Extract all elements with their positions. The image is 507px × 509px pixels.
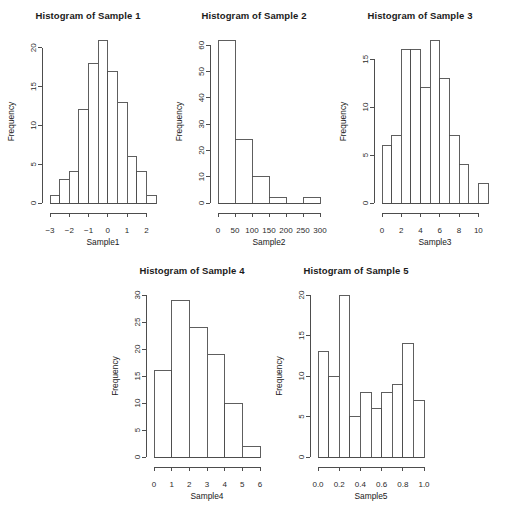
y-tick-label: 15 xyxy=(297,331,306,340)
histogram-bar xyxy=(172,300,190,457)
y-tick-label: 20 xyxy=(29,43,38,52)
histogram-bar xyxy=(127,156,137,203)
histogram-bar xyxy=(252,177,269,203)
histogram-bar xyxy=(108,71,118,203)
histogram-panel-sample3: Histogram of Sample 30510150246810Sample… xyxy=(336,10,504,255)
chart-title-sample2: Histogram of Sample 2 xyxy=(172,10,336,21)
histogram-bar xyxy=(235,140,252,203)
x-tick-label: 0 xyxy=(152,480,157,489)
histogram-bar xyxy=(401,50,411,203)
x-axis-title: Sample2 xyxy=(252,237,285,247)
x-axis-title: Sample1 xyxy=(86,237,119,247)
bars-sample3 xyxy=(382,40,488,203)
x-axis-sample2: 050100150200250300 xyxy=(216,203,327,235)
chart-title-sample3: Histogram of Sample 3 xyxy=(336,10,504,21)
histogram-bar xyxy=(413,400,424,457)
histogram-bar xyxy=(189,327,207,457)
histogram-bar xyxy=(154,371,172,457)
histogram-bar xyxy=(449,136,459,203)
x-tick-label: 0.6 xyxy=(376,480,388,489)
x-tick-label: −1 xyxy=(84,226,94,235)
x-axis-sample5: 0.00.20.40.60.81.0 xyxy=(312,457,430,489)
histogram-panel-sample2: Histogram of Sample 20102030405060050100… xyxy=(172,10,336,255)
y-axis-title: Frequency xyxy=(110,355,120,395)
x-axis-title: Sample4 xyxy=(190,491,223,501)
y-tick-label: 10 xyxy=(197,172,206,181)
histogram-bar xyxy=(207,354,225,457)
y-tick-label: 40 xyxy=(197,93,206,102)
bars-sample1 xyxy=(50,40,156,203)
y-axis-sample1: 05101520 xyxy=(29,43,42,205)
histogram-panel-sample4: Histogram of Sample 40510152025300123456… xyxy=(108,265,276,509)
x-tick-label: 5 xyxy=(240,480,245,489)
x-axis-sample1: −3−2−1012 xyxy=(45,203,156,235)
histogram-bar xyxy=(60,180,70,203)
x-tick-label: 1 xyxy=(169,480,174,489)
histogram-bar xyxy=(146,195,156,203)
x-tick-label: 0 xyxy=(216,226,221,235)
x-tick-label: 0.2 xyxy=(334,480,346,489)
y-tick-label: 5 xyxy=(29,161,38,166)
histogram-bar xyxy=(392,136,402,203)
histogram-bar xyxy=(137,172,147,203)
y-tick-label: 0 xyxy=(197,200,206,205)
x-tick-label: 0.4 xyxy=(355,480,367,489)
histogram-bar xyxy=(350,417,361,458)
histogram-bar xyxy=(269,198,286,203)
x-tick-label: 0 xyxy=(380,226,385,235)
y-tick-label: 0 xyxy=(133,454,142,459)
x-tick-label: 100 xyxy=(245,226,259,235)
chart-title-sample5: Histogram of Sample 5 xyxy=(272,265,440,276)
y-axis-sample4: 051015202530 xyxy=(133,290,146,459)
x-tick-label: 4 xyxy=(222,480,227,489)
histogram-bar xyxy=(89,63,99,203)
y-tick-label: 50 xyxy=(197,67,206,76)
x-tick-label: 150 xyxy=(262,226,276,235)
figure-canvas: Histogram of Sample 105101520−3−2−1012Sa… xyxy=(0,0,507,509)
y-tick-label: 15 xyxy=(29,82,38,91)
x-tick-label: 50 xyxy=(231,226,240,235)
histogram-bar xyxy=(478,184,488,203)
x-tick-label: 300 xyxy=(313,226,327,235)
x-tick-label: 200 xyxy=(279,226,293,235)
y-tick-label: 30 xyxy=(133,290,142,299)
bars-sample5 xyxy=(318,295,424,457)
histogram-bar xyxy=(440,78,450,203)
histogram-bar xyxy=(329,376,340,457)
y-tick-label: 20 xyxy=(297,290,306,299)
y-tick-label: 5 xyxy=(133,427,142,432)
histogram-bar xyxy=(318,352,329,457)
bars-sample2 xyxy=(218,40,320,203)
x-tick-label: 0 xyxy=(106,226,111,235)
y-tick-label: 20 xyxy=(133,344,142,353)
y-axis-title: Frequency xyxy=(6,101,16,141)
histogram-bar xyxy=(218,40,235,203)
x-axis-title: Sample3 xyxy=(418,237,451,247)
y-tick-label: 5 xyxy=(361,152,370,157)
histogram-bar xyxy=(303,198,320,203)
y-tick-label: 60 xyxy=(197,40,206,49)
x-tick-label: 3 xyxy=(205,480,210,489)
x-axis-sample3: 0246810 xyxy=(380,203,488,235)
histogram-bar xyxy=(79,110,89,203)
bars-sample4 xyxy=(154,300,260,457)
histogram-bar xyxy=(339,295,350,457)
x-tick-label: −3 xyxy=(45,226,55,235)
x-tick-label: 10 xyxy=(474,226,483,235)
y-tick-label: 15 xyxy=(361,54,370,63)
y-tick-label: 10 xyxy=(29,120,38,129)
histogram-bar xyxy=(242,446,260,457)
y-tick-label: 20 xyxy=(197,145,206,154)
x-tick-label: −2 xyxy=(65,226,75,235)
histogram-bar xyxy=(459,165,469,203)
x-tick-label: 4 xyxy=(418,226,423,235)
y-axis-sample3: 051015 xyxy=(361,54,374,205)
x-tick-label: 2 xyxy=(399,226,404,235)
histogram-bar xyxy=(50,195,60,203)
histogram-bar xyxy=(382,145,392,203)
x-tick-label: 0.0 xyxy=(312,480,324,489)
histogram-bar xyxy=(98,40,108,203)
x-axis-title: Sample5 xyxy=(354,491,387,501)
x-tick-label: 6 xyxy=(438,226,443,235)
x-tick-label: 250 xyxy=(296,226,310,235)
